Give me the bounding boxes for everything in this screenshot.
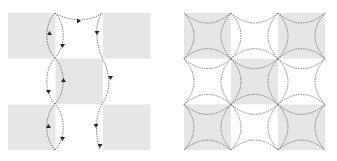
dashed-arc xyxy=(268,13,278,59)
dashed-arc xyxy=(278,94,325,104)
dashed-arc xyxy=(184,94,231,104)
shaded-cell xyxy=(231,59,278,105)
right-panel xyxy=(184,13,325,150)
figure xyxy=(0,0,337,161)
top-connector-arc xyxy=(55,13,102,20)
dashed-arc xyxy=(231,104,241,150)
diagram-canvas xyxy=(0,0,337,161)
arrow-right-icon xyxy=(77,19,81,24)
dashed-arc xyxy=(315,59,325,105)
dashed-arc xyxy=(231,104,278,114)
left-panel xyxy=(8,13,151,150)
dashed-arc xyxy=(268,104,278,150)
arrow-down-icon xyxy=(60,44,65,48)
shaded-cell xyxy=(184,104,231,150)
shaded-cell xyxy=(278,104,325,150)
right-checkerboard xyxy=(184,13,325,150)
dashed-arc xyxy=(231,13,241,59)
shaded-cell xyxy=(103,104,151,150)
dashed-arc xyxy=(184,59,231,69)
arrow-down-icon xyxy=(94,124,99,128)
left-checkerboard xyxy=(8,13,151,150)
arrow-down-icon xyxy=(46,90,51,94)
dashed-arc xyxy=(278,59,288,105)
shaded-cell xyxy=(8,13,56,59)
dashed-arc xyxy=(221,59,231,105)
shaded-cell xyxy=(184,13,231,59)
shaded-cell xyxy=(103,13,151,59)
dashed-arc xyxy=(231,49,278,59)
dashed-arc xyxy=(231,140,278,150)
arrow-down-icon xyxy=(98,144,103,148)
dashed-arc xyxy=(231,13,278,23)
shaded-cell xyxy=(278,13,325,59)
dashed-arc xyxy=(278,59,325,69)
arrow-down-icon xyxy=(95,31,100,35)
dashed-arc xyxy=(184,59,194,105)
